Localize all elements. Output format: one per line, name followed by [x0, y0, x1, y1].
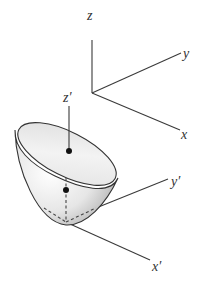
world-axes: z y x	[86, 8, 190, 142]
paraboloid-axes-diagram: z y x y′ x′ z′	[0, 0, 204, 282]
body-x-axis	[70, 224, 150, 260]
world-z-label: z	[86, 8, 93, 23]
world-x-axis	[92, 93, 180, 130]
body-y-label: y′	[169, 174, 181, 189]
world-x-label: x	[180, 127, 188, 142]
world-y-label: y	[181, 46, 190, 61]
rim-center-point	[66, 148, 72, 154]
center-of-mass-point	[63, 187, 69, 193]
paraboloid	[9, 110, 125, 225]
body-z-label: z′	[62, 90, 72, 105]
body-x-label: x′	[151, 259, 162, 274]
world-y-axis	[92, 53, 181, 93]
